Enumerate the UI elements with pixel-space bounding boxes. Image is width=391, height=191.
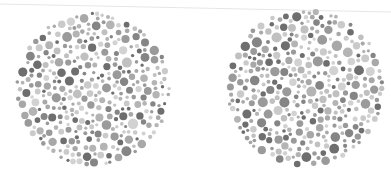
ishihara-plate-right: [0, 0, 391, 191]
dot-circle-right: [0, 0, 391, 191]
